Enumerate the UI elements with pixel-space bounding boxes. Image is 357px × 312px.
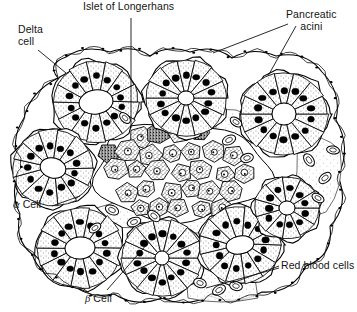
leader-acini-a: [213, 24, 288, 53]
label-delta-cell: Delta cell: [18, 24, 43, 47]
label-red-blood-cells: Red blood cells: [281, 260, 354, 272]
label-beta-cell: β Cell: [85, 293, 112, 305]
label-pancreatic-acini: Pancreatic acini: [286, 9, 337, 32]
label-alpha-cell: α Cell: [14, 199, 41, 211]
label-islet-of-langerhans: Islet of Longerhans: [83, 1, 174, 13]
pancreas-histology-figure: Delta cell Islet of Longerhans Pancreati…: [0, 0, 357, 312]
beta-cell-text: Cell: [90, 292, 112, 304]
alpha-cell-text: Cell: [20, 198, 42, 210]
